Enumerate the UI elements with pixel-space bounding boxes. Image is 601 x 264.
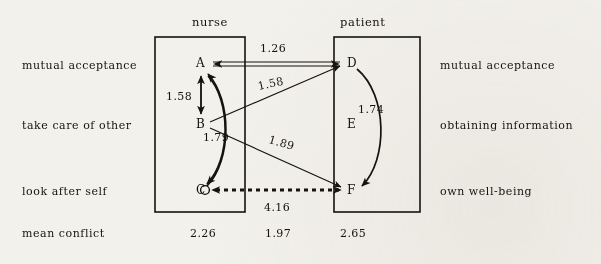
edge-A-D bbox=[213, 62, 340, 66]
mean-conflict-between: 1.97 bbox=[265, 228, 291, 239]
left-label-mean-conflict: mean conflict bbox=[22, 228, 105, 239]
left-label-mutual-acceptance: mutual acceptance bbox=[22, 60, 137, 71]
edge-label-C-F: 4.16 bbox=[264, 202, 290, 213]
diagram-page: nurse patient mutual acceptance take car… bbox=[0, 0, 601, 264]
mean-conflict-patient: 2.65 bbox=[340, 228, 366, 239]
right-label-mutual-acceptance: mutual acceptance bbox=[440, 60, 555, 71]
group-header-patient: patient bbox=[340, 17, 386, 29]
node-C: C bbox=[196, 184, 205, 196]
edge-label-A-C: 1.79 bbox=[203, 132, 229, 143]
edge-label-A-B: 1.58 bbox=[166, 91, 192, 102]
edge-A-C bbox=[207, 74, 226, 186]
node-E: E bbox=[347, 118, 356, 130]
node-B: B bbox=[196, 118, 205, 130]
diagram-canvas bbox=[0, 0, 601, 264]
right-label-obtaining-information: obtaining information bbox=[440, 120, 573, 131]
group-header-nurse: nurse bbox=[192, 17, 228, 29]
edge-B-D bbox=[210, 66, 340, 122]
edge-label-D-F: 1.74 bbox=[358, 104, 384, 115]
node-A: A bbox=[196, 57, 205, 69]
left-label-take-care-of-other: take care of other bbox=[22, 120, 132, 131]
edge-C-F bbox=[201, 186, 341, 195]
right-label-own-well-being: own well-being bbox=[440, 186, 532, 197]
node-F: F bbox=[347, 184, 355, 196]
mean-conflict-nurse: 2.26 bbox=[190, 228, 216, 239]
node-D: D bbox=[347, 57, 357, 69]
left-label-look-after-self: look after self bbox=[22, 186, 107, 197]
edge-D-F bbox=[357, 69, 381, 186]
edge-label-A-D: 1.26 bbox=[260, 43, 286, 54]
